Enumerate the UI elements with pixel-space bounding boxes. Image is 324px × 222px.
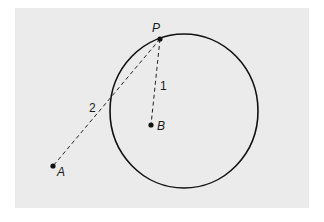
point-a-label: A xyxy=(57,166,65,178)
point-b-label: B xyxy=(157,120,165,132)
point-a-dot xyxy=(50,163,55,168)
point-p-label: P xyxy=(152,22,160,34)
point-b-dot xyxy=(148,122,153,127)
segment-1-label: 1 xyxy=(160,80,167,92)
segment-2-label: 2 xyxy=(89,102,96,114)
geometry-diagram xyxy=(0,0,324,222)
segment-p-b xyxy=(151,39,160,125)
segment-p-a xyxy=(53,39,160,166)
circle xyxy=(110,34,258,188)
point-p-dot xyxy=(157,36,162,41)
